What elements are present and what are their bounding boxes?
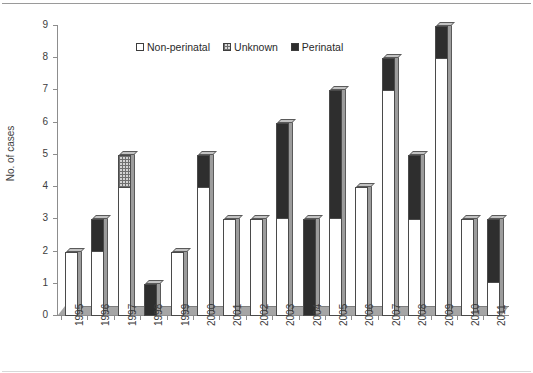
x-axis-tick: [246, 316, 247, 320]
bar-top-face: [277, 119, 296, 123]
bar-stack[interactable]: [250, 219, 263, 316]
y-axis-tick-label: 5: [42, 149, 48, 159]
x-axis-tick-label: 2000: [207, 304, 217, 326]
x-axis-tick-label: 2006: [365, 304, 375, 326]
bar-side-face: [342, 86, 346, 312]
bar-top-face: [462, 215, 481, 219]
bar-top-face: [356, 183, 375, 187]
y-axis-tick: 7: [53, 89, 58, 90]
bar-top-face: [488, 215, 507, 219]
x-axis-tick: [167, 316, 168, 320]
bar-top-face: [92, 215, 111, 219]
y-axis-line: [57, 25, 58, 316]
y-axis-tick-label: 6: [42, 117, 48, 127]
x-axis-tick: [299, 316, 300, 320]
bar-top-face: [66, 248, 85, 252]
y-axis-tick: 6: [53, 122, 58, 123]
y-axis-tick: 1: [53, 283, 58, 284]
bar-side-face: [368, 183, 372, 312]
bar-stack[interactable]: [382, 58, 395, 316]
bar-segment-non-perinatal[interactable]: [251, 220, 262, 315]
bar-segment-perinatal[interactable]: [409, 156, 420, 220]
plot-area: 0123456789 19951996199719981999200020012…: [57, 20, 509, 316]
y-axis-tick: 4: [53, 186, 58, 187]
x-axis-tick-label: 2002: [260, 304, 270, 326]
bar-segment-unknown[interactable]: [119, 156, 130, 188]
bar-stack[interactable]: [118, 155, 131, 316]
x-axis-tick: [193, 316, 194, 320]
bar-side-face: [421, 151, 425, 312]
bar-side-face: [104, 215, 108, 312]
x-axis-tick-label: 2001: [233, 304, 243, 326]
x-axis-tick: [483, 316, 484, 320]
bar-segment-non-perinatal[interactable]: [462, 220, 473, 315]
bar-stack[interactable]: [303, 219, 316, 316]
y-axis-title: No. of cases: [5, 126, 16, 182]
bar-stack[interactable]: [276, 123, 289, 316]
y-axis-tick: 3: [53, 218, 58, 219]
bar-segment-perinatal[interactable]: [330, 91, 341, 219]
chart-figure: No. of cases Non-perinatalUnknownPerinat…: [0, 0, 533, 373]
x-axis-tick: [140, 316, 141, 320]
bar-side-face: [263, 215, 267, 312]
bar-top-face: [383, 54, 402, 58]
x-axis-tick-label: 1996: [101, 304, 111, 326]
y-axis-tick-label: 9: [42, 20, 48, 30]
y-axis-tick-label: 7: [42, 84, 48, 94]
bar-stack[interactable]: [487, 219, 500, 316]
bar-segment-non-perinatal[interactable]: [330, 219, 341, 315]
bar-top-face: [330, 86, 349, 90]
bar-top-face: [436, 22, 455, 26]
bar-segment-perinatal[interactable]: [436, 27, 447, 59]
x-axis-tick-label: 2008: [418, 304, 428, 326]
bar-top-face: [304, 215, 323, 219]
bar-stack[interactable]: [197, 155, 210, 316]
bar-top-face: [251, 215, 270, 219]
bar-segment-non-perinatal[interactable]: [436, 59, 447, 315]
y-axis-tick-label: 4: [42, 181, 48, 191]
y-axis-tick-label: 0: [42, 310, 48, 320]
bar-segment-non-perinatal[interactable]: [356, 188, 367, 315]
bar-stack[interactable]: [408, 155, 421, 316]
bar-top-face: [409, 151, 428, 155]
bar-side-face: [184, 248, 188, 312]
x-axis-tick: [351, 316, 352, 320]
bar-side-face: [236, 215, 240, 312]
bar-segment-non-perinatal[interactable]: [277, 219, 288, 315]
y-axis-tick-label: 1: [42, 278, 48, 288]
bar-top-face: [198, 151, 217, 155]
bar-stack[interactable]: [435, 26, 448, 316]
bar-segment-perinatal[interactable]: [488, 220, 499, 283]
bar-side-face: [395, 54, 399, 312]
bar-stack[interactable]: [461, 219, 474, 316]
bar-segment-perinatal[interactable]: [198, 156, 209, 188]
y-axis-tick: 9: [53, 25, 58, 26]
bar-stack[interactable]: [91, 219, 104, 316]
bar-segment-perinatal[interactable]: [277, 124, 288, 220]
bar-segment-non-perinatal[interactable]: [198, 188, 209, 315]
x-axis-tick: [219, 316, 220, 320]
bar-stack[interactable]: [355, 187, 368, 316]
y-axis-tick: 0: [53, 315, 58, 316]
bar-stack[interactable]: [329, 90, 342, 316]
x-axis-tick-label: 2003: [286, 304, 296, 326]
x-axis-tick: [87, 316, 88, 320]
x-axis-tick-label: 1995: [75, 304, 85, 326]
bar-segment-perinatal[interactable]: [383, 59, 394, 91]
x-axis-tick-label: 2005: [339, 304, 349, 326]
bar-segment-non-perinatal[interactable]: [224, 220, 235, 315]
bar-top-face: [172, 248, 191, 252]
bar-segment-non-perinatal[interactable]: [383, 91, 394, 315]
bar-side-face: [131, 151, 135, 312]
bar-segment-non-perinatal[interactable]: [409, 220, 420, 315]
bar-side-face: [316, 215, 320, 312]
bar-segment-perinatal[interactable]: [92, 220, 103, 252]
figure-top-rule: [2, 3, 531, 4]
bar-segment-perinatal[interactable]: [304, 220, 315, 315]
y-axis-tick-label: 3: [42, 213, 48, 223]
x-axis-tick: [378, 316, 379, 320]
bar-side-face: [210, 151, 214, 312]
bar-stack[interactable]: [223, 219, 236, 316]
bar-segment-non-perinatal[interactable]: [119, 188, 130, 315]
y-axis-tick-label: 8: [42, 52, 48, 62]
